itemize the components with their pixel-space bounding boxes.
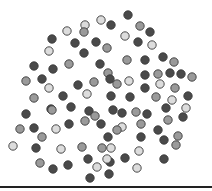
data-point-medium <box>132 108 140 116</box>
data-point-dark <box>124 11 132 19</box>
data-point-dark <box>64 161 72 169</box>
data-point-medium <box>36 159 44 167</box>
data-point-dark <box>105 170 113 178</box>
data-point-dark <box>184 92 192 100</box>
data-point-dark <box>107 92 115 100</box>
data-point-medium <box>16 125 24 133</box>
scatter-plot <box>0 0 212 191</box>
data-point-light <box>97 16 105 24</box>
data-point-dark <box>49 65 57 73</box>
data-point-medium <box>188 73 196 81</box>
data-point-dark <box>137 133 145 141</box>
data-point-dark <box>134 38 142 46</box>
data-point-dark <box>80 49 88 57</box>
data-point-dark <box>141 71 149 79</box>
data-point-medium <box>113 126 121 134</box>
data-point-medium <box>171 84 179 92</box>
data-point-medium <box>136 22 144 30</box>
data-point-dark <box>160 155 168 163</box>
data-point-light <box>83 90 91 98</box>
data-point-medium <box>78 143 86 151</box>
data-point-dark <box>65 120 73 128</box>
data-point-dark <box>86 174 94 182</box>
data-point-dark <box>97 120 105 128</box>
data-point-dark <box>121 154 129 162</box>
data-point-medium <box>90 78 98 86</box>
data-point-medium <box>65 60 73 68</box>
data-point-medium <box>38 133 46 141</box>
data-point-medium <box>81 117 89 125</box>
data-point-light <box>103 155 111 163</box>
data-point-light <box>107 144 115 152</box>
data-point-dark <box>154 126 162 134</box>
data-point-medium <box>164 116 172 124</box>
data-point-medium <box>170 58 178 66</box>
data-point-dark <box>160 136 168 144</box>
data-point-dark <box>159 53 167 61</box>
data-point-dark <box>38 75 46 83</box>
data-point-dark <box>118 109 126 117</box>
data-point-medium <box>137 120 145 128</box>
data-point-light <box>93 163 101 171</box>
data-point-medium <box>48 106 56 114</box>
data-point-dark <box>48 35 56 43</box>
data-point-dark <box>67 103 75 111</box>
data-point-light <box>168 96 176 104</box>
data-point-medium <box>123 56 131 64</box>
data-point-medium <box>113 80 121 88</box>
data-point-dark <box>49 165 57 173</box>
data-point-dark <box>104 133 112 141</box>
data-point-light <box>133 164 141 172</box>
data-point-dark <box>141 56 149 64</box>
data-point-dark <box>30 62 38 70</box>
data-point-medium <box>152 93 160 101</box>
data-point-dark <box>143 110 151 118</box>
data-point-dark <box>92 38 100 46</box>
scatter-canvas <box>0 0 212 191</box>
data-point-light <box>9 142 17 150</box>
data-point-medium <box>91 112 99 120</box>
data-point-dark <box>22 110 30 118</box>
data-point-medium <box>80 28 88 36</box>
data-point-light <box>121 32 129 40</box>
data-point-medium <box>172 141 180 149</box>
data-point-light <box>182 104 190 112</box>
data-point-light <box>45 84 53 92</box>
data-point-dark <box>96 60 104 68</box>
data-point-dark <box>146 28 154 36</box>
data-point-medium <box>174 132 182 140</box>
data-point-light <box>125 77 133 85</box>
data-point-dark <box>32 144 40 152</box>
data-point-light <box>52 125 60 133</box>
x-axis-line <box>0 186 212 188</box>
data-point-dark <box>126 93 134 101</box>
data-point-dark <box>84 155 92 163</box>
data-point-dark <box>166 69 174 77</box>
data-point-medium <box>103 44 111 52</box>
data-point-medium <box>98 144 106 152</box>
data-point-dark <box>30 124 38 132</box>
data-point-dark <box>179 113 187 121</box>
data-point-medium <box>22 77 30 85</box>
data-point-dark <box>141 84 149 92</box>
data-point-dark <box>107 21 115 29</box>
data-point-dark <box>71 39 79 47</box>
data-point-dark <box>74 81 82 89</box>
data-point-medium <box>154 70 162 78</box>
data-point-light <box>45 47 53 55</box>
data-point-light <box>148 41 156 49</box>
data-point-light <box>57 145 65 153</box>
data-point-dark <box>59 92 67 100</box>
data-point-dark <box>162 104 170 112</box>
data-point-medium <box>30 94 38 102</box>
data-point-dark <box>177 70 185 78</box>
data-point-light <box>156 80 164 88</box>
data-point-light <box>135 147 143 155</box>
data-point-dark <box>109 106 117 114</box>
data-point-light <box>63 27 71 35</box>
